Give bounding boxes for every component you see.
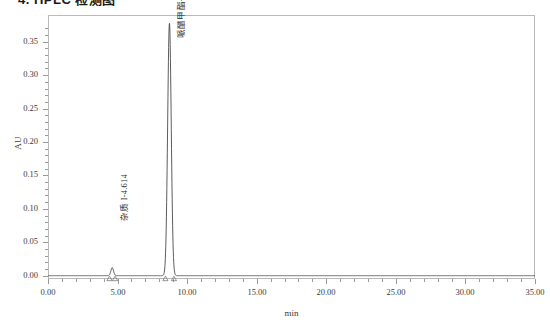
peak-integration-marker [171,276,176,281]
chromatogram-chart: AU min 0.000.050.100.150.200.250.300.350… [0,0,550,334]
trace-path [48,23,535,275]
peak-integration-marker [163,276,168,281]
chromatogram-trace [0,0,550,334]
peak-integration-marker [107,276,112,281]
peak-integration-marker [112,276,117,281]
